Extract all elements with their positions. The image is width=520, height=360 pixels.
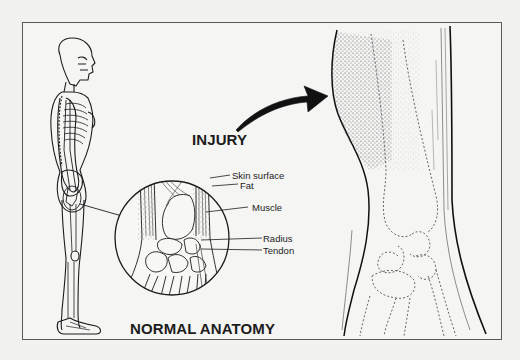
callout-muscle: Muscle [252, 202, 282, 213]
normal-anatomy-label: NORMAL ANATOMY [130, 320, 275, 337]
injury-arrow [236, 86, 328, 132]
callout-tendon: Tendon [263, 245, 294, 256]
callout-fat: Fat [240, 180, 254, 191]
injury-label: INJURY [192, 131, 247, 148]
magnifier-connector [80, 204, 122, 216]
callout-radius: Radius [263, 233, 293, 244]
skeleton-figure [51, 38, 101, 334]
injured-wrist [332, 26, 487, 336]
